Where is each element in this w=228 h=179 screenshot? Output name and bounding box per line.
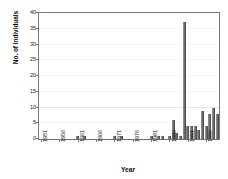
x-axis-tick-label: 1996 <box>207 112 213 142</box>
bar <box>201 111 204 139</box>
y-axis-tick <box>36 12 39 13</box>
x-axis-tick-label: 1976 <box>134 112 140 142</box>
y-axis-tick-label: 15 <box>22 88 36 94</box>
y-axis-tick <box>36 107 39 108</box>
x-axis-tick-label: 1991 <box>189 112 195 142</box>
y-axis-tick-label: 20 <box>22 72 36 78</box>
bar <box>179 136 182 139</box>
y-axis-tick-label: 0 <box>22 135 36 141</box>
x-axis-title: Year <box>38 166 218 173</box>
y-axis-tick-label: 35 <box>22 25 36 31</box>
y-axis-tick-label: 5 <box>22 119 36 125</box>
y-axis-tick-label: 25 <box>22 56 36 62</box>
x-axis-tick-label: 1961 <box>79 112 85 142</box>
x-axis-tick-label: 1981 <box>152 112 158 142</box>
bar <box>161 136 164 139</box>
x-axis-tick-label: 1951 <box>42 112 48 142</box>
y-axis-tick-label: 40 <box>22 9 36 15</box>
y-axis-tick <box>36 75 39 76</box>
y-axis-tick <box>36 122 39 123</box>
x-axis-tick-label: 1966 <box>97 112 103 142</box>
y-axis-tick <box>36 44 39 45</box>
y-axis-tick <box>36 138 39 139</box>
y-axis-tick-label: 30 <box>22 41 36 47</box>
y-axis-tick <box>36 28 39 29</box>
chart-container: No. of Individuals 0510152025303540 1951… <box>0 0 228 179</box>
bar <box>197 130 200 139</box>
y-axis-tick-label: 10 <box>22 104 36 110</box>
x-axis-tick-label: 1971 <box>116 112 122 142</box>
bar <box>183 22 186 139</box>
bar <box>216 114 219 139</box>
x-axis-tick-label: 1956 <box>60 112 66 142</box>
y-axis-tick <box>36 91 39 92</box>
y-axis-tick <box>36 59 39 60</box>
y-axis-title: No. of Individuals <box>12 0 19 93</box>
x-axis-tick-label: 1986 <box>171 112 177 142</box>
